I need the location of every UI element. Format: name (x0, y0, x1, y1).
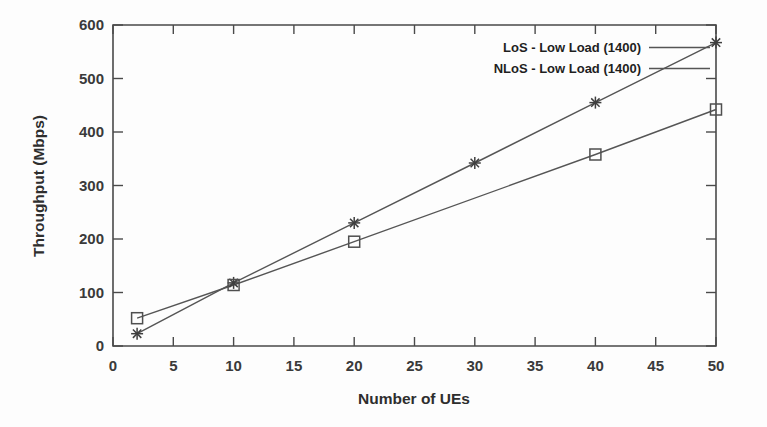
y-tick-label-300: 300 (79, 177, 104, 194)
series-group (137, 43, 716, 334)
y-tick-label-500: 500 (79, 70, 104, 87)
y-tick-label-600: 600 (79, 16, 104, 33)
x-axis-title: Number of UEs (358, 390, 470, 407)
series-line-los (137, 43, 716, 334)
series-line-nlos (137, 110, 716, 319)
x-tick-label-40: 40 (587, 357, 604, 374)
x-tick-label-30: 30 (466, 357, 483, 374)
throughput-vs-ues-chart: 0 100 200 300 400 500 600 (0, 0, 767, 427)
x-tick-label-10: 10 (225, 357, 242, 374)
y-tick-label-200: 200 (79, 230, 104, 247)
y-axis-title: Throughput (Mbps) (30, 115, 47, 257)
x-tick-label-5: 5 (169, 357, 177, 374)
x-tick-label-20: 20 (346, 357, 363, 374)
series-markers-los (131, 37, 722, 340)
y-tick-label-400: 400 (79, 123, 104, 140)
y-tick-label-100: 100 (79, 284, 104, 301)
x-tick-label-0: 0 (109, 357, 117, 374)
legend-label-nlos: NLoS - Low Load (1400) (494, 61, 641, 76)
x-tick-label-25: 25 (406, 357, 423, 374)
x-tick-label-45: 45 (647, 357, 664, 374)
legend-label-los: LoS - Low Load (1400) (503, 40, 641, 55)
x-tick-label-35: 35 (527, 357, 544, 374)
x-tick-label-50: 50 (708, 357, 725, 374)
chart-figure: 0 100 200 300 400 500 600 (0, 0, 767, 427)
y-tick-label-0: 0 (96, 337, 104, 354)
x-tick-label-15: 15 (286, 357, 303, 374)
chart-legend: LoS - Low Load (1400) NLoS - Low Load (1… (494, 40, 710, 76)
